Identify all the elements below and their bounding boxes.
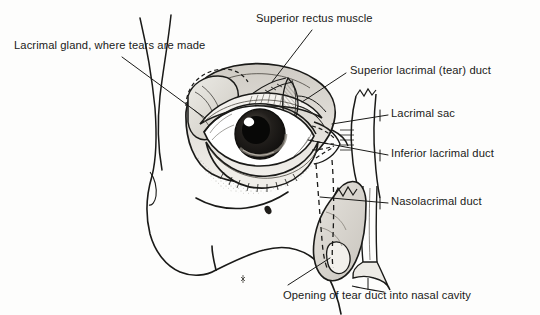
corneal-highlight bbox=[244, 118, 254, 127]
infraorbital-foramen bbox=[263, 205, 273, 216]
label-opening-into-nasal-cavity: Opening of tear duct into nasal cavity bbox=[283, 290, 471, 301]
label-lacrimal-gland: Lacrimal gland, where tears are made bbox=[14, 40, 205, 51]
label-inferior-lacrimal-duct: Inferior lacrimal duct bbox=[391, 148, 494, 159]
label-superior-rectus-muscle: Superior rectus muscle bbox=[256, 13, 373, 24]
label-nasolacrimal-duct: Nasolacrimal duct bbox=[391, 196, 482, 207]
bone-marking bbox=[241, 275, 245, 283]
temple-notch bbox=[149, 172, 156, 205]
label-lacrimal-sac: Lacrimal sac bbox=[391, 108, 455, 119]
label-superior-lacrimal-duct: Superior lacrimal (tear) duct bbox=[350, 65, 491, 76]
diagram-canvas: Lacrimal gland, where tears are made Sup… bbox=[0, 0, 540, 315]
iris bbox=[235, 109, 286, 159]
